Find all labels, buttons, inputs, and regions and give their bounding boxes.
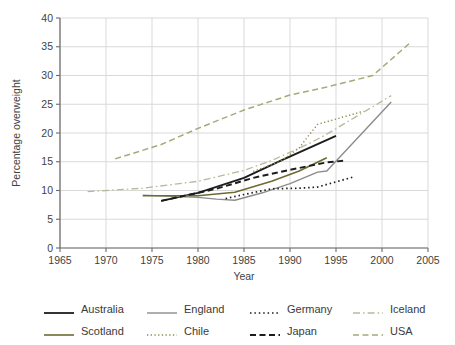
legend-item-germany[interactable]: Germany [249,303,352,315]
legend-swatch-usa [352,326,384,336]
x-tick-label: 2000 [370,254,394,266]
y-tick-label: 0 [47,242,53,254]
legend-item-usa[interactable]: USA [352,325,455,337]
y-tick-label: 25 [41,98,53,110]
x-tick-label: 1980 [186,254,210,266]
legend-label: England [184,303,224,315]
legend-label: Germany [287,303,332,315]
y-tick-label: 15 [41,155,53,167]
legend-item-australia[interactable]: Australia [43,303,146,315]
x-tick-label: 1985 [232,254,256,266]
legend-label: USA [390,325,413,337]
series-line-usa [115,43,409,159]
x-tick-label: 1975 [140,254,164,266]
y-tick-label: 35 [41,40,53,52]
series-lines [88,43,410,201]
x-tick-label: 1995 [324,254,348,266]
legend-item-japan[interactable]: Japan [249,325,352,337]
legend-swatch-germany [249,304,281,314]
y-tick-label: 20 [41,127,53,139]
line-chart-plot: 0510152025303540196519701975198019851990… [0,0,455,345]
axes [56,18,428,252]
x-tick-label: 1970 [94,254,118,266]
legend-swatch-scotland [43,326,75,336]
y-tick-label: 5 [47,213,53,225]
y-tick-label: 40 [41,12,53,24]
x-tick-label: 2005 [416,254,440,266]
x-tick-label: 1965 [48,254,72,266]
legend-swatch-australia [43,304,75,314]
series-line-chile [253,111,363,171]
series-line-england [143,102,391,200]
x-axis-title: Year [233,270,255,282]
series-line-iceland [88,96,392,192]
legend-item-iceland[interactable]: Iceland [352,303,455,315]
legend-swatch-iceland [352,304,384,314]
legend-swatch-japan [249,326,281,336]
legend-row: AustraliaEnglandGermanyIceland [0,298,455,320]
legend-item-scotland[interactable]: Scotland [43,325,146,337]
series-line-scotland [143,158,327,196]
legend-item-england[interactable]: England [146,303,249,315]
legend-label: Scotland [81,325,124,337]
chart-legend: AustraliaEnglandGermanyIcelandScotlandCh… [0,298,455,345]
legend-item-chile[interactable]: Chile [146,325,249,337]
y-tick-label: 10 [41,184,53,196]
legend-label: Chile [184,325,209,337]
legend-label: Australia [81,303,124,315]
legend-swatch-chile [146,326,178,336]
legend-swatch-england [146,304,178,314]
y-tick-label: 30 [41,69,53,81]
chart-container: 0510152025303540196519701975198019851990… [0,0,455,345]
axis-labels: 0510152025303540196519701975198019851990… [10,12,440,282]
legend-row: ScotlandChileJapanUSA [0,320,455,342]
legend-label: Japan [287,325,317,337]
legend-label: Iceland [390,303,425,315]
y-axis-title: Percentage overweight [10,79,22,186]
grid-lines [60,18,428,248]
x-tick-label: 1990 [278,254,302,266]
